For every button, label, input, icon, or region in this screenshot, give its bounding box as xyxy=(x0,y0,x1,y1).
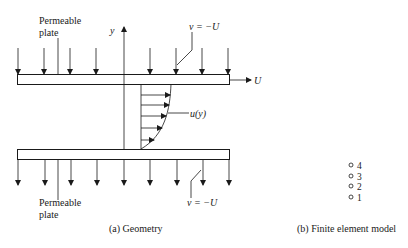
fe-model-figure: 4 3 2 1 (b) Finite element model xyxy=(297,161,396,236)
svg-text:2: 2 xyxy=(357,182,362,192)
fe-node: 2 xyxy=(349,182,362,192)
bottom-plate xyxy=(18,150,230,160)
fe-node: 4 xyxy=(349,161,362,171)
svg-text:4: 4 xyxy=(357,161,362,171)
bottom-suction-arrows xyxy=(18,160,229,185)
fe-node: 3 xyxy=(349,172,362,182)
bottom-plate-label: Permeable xyxy=(39,197,82,208)
top-plate-label: Permeable xyxy=(39,15,82,26)
fe-model-caption: (b) Finite element model xyxy=(297,223,396,235)
top-plate-label-line2: plate xyxy=(39,27,59,38)
bottom-plate-label-line2: plate xyxy=(39,209,59,220)
top-suction-label: v = −U xyxy=(189,21,220,32)
svg-text:1: 1 xyxy=(357,193,362,203)
top-plate xyxy=(18,75,230,85)
profile-label: u(y) xyxy=(190,108,207,120)
geometry-caption: (a) Geometry xyxy=(109,223,163,235)
plate-velocity-label: U xyxy=(254,75,262,86)
fe-node: 1 xyxy=(349,193,362,203)
bottom-suction-leader xyxy=(191,170,201,198)
top-suction-leader xyxy=(177,32,192,65)
diagram-canvas: y U u(y) Permeable plate v = −U Permeabl… xyxy=(0,0,408,248)
y-axis-label: y xyxy=(109,25,115,36)
geometry-figure: y U u(y) Permeable plate v = −U Permeabl… xyxy=(18,15,263,235)
top-suction-arrows xyxy=(18,48,228,74)
svg-text:3: 3 xyxy=(357,172,362,182)
bottom-suction-label: v = −U xyxy=(187,197,218,208)
velocity-profile xyxy=(141,84,189,149)
